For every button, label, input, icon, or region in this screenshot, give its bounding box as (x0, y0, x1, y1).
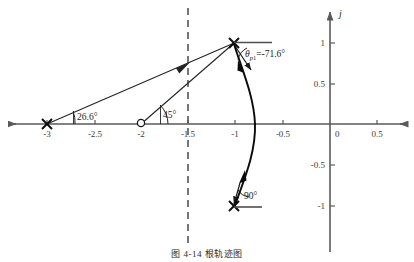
root-locus-plot: -3 -2.5 -2 -1.5 -1 -0.5 0 0.5 1 0.5 -0.5… (0, 0, 414, 262)
angle-label-26-6: 26.6° (77, 112, 98, 122)
y-tick-label-neg0-5: -0.5 (311, 160, 326, 170)
angle-vector-from-pole-minus3 (47, 44, 233, 125)
svg-text:θp1=-71.6°: θp1=-71.6° (245, 49, 285, 61)
departure-angle-label-group: θp1=-71.6° (245, 49, 285, 61)
x-tick-label-0-5: 0.5 (371, 129, 383, 139)
angle-vector-from-zero-minus2 (141, 44, 233, 124)
x-tick-label-neg3: -3 (43, 129, 51, 139)
locus-direction-arrow-top (238, 60, 245, 73)
y-tick-label-0-5: 0.5 (314, 79, 326, 89)
zero-marker-minus-2 (137, 119, 144, 126)
axis-label-imaginary: j (337, 8, 342, 19)
figure-root-locus: -3 -2.5 -2 -1.5 -1 -0.5 0 0.5 1 0.5 -0.5… (0, 0, 414, 262)
theta-value: =-71.6° (256, 49, 285, 59)
x-tick-label-neg2-5: -2.5 (88, 129, 103, 139)
y-tick-label-1: 1 (321, 38, 326, 48)
x-tick-label-neg1: -1 (231, 129, 239, 139)
figure-caption: 图 4-14 根轨迹图 (0, 247, 414, 260)
x-tick-label-neg2: -2 (137, 129, 145, 139)
x-tick-label-neg0-5: -0.5 (276, 129, 291, 139)
x-tick-label-zero: 0 (335, 129, 340, 139)
angle-arc-26-6 (73, 111, 75, 124)
angle-label-45: 45° (163, 110, 177, 120)
y-tick-label-neg1: -1 (318, 201, 326, 211)
angle-label-90: 90° (244, 191, 258, 201)
x-axis-tick-labels: -3 -2.5 -2 -1.5 -1 -0.5 0 0.5 (43, 129, 383, 139)
locus-direction-arrow-bottom (239, 170, 247, 184)
